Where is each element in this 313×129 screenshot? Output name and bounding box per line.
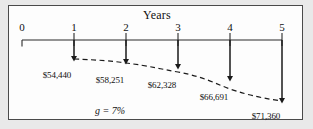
cash-flow-label-year-1: $54,440	[43, 71, 72, 80]
chart-title: Years	[143, 9, 171, 21]
year-label-5: 5	[279, 22, 285, 33]
cash-flow-label-year-3: $62,328	[148, 81, 177, 90]
year-label-2: 2	[123, 22, 129, 33]
growth-rate-annotation: g = 7%	[95, 106, 125, 116]
cash-flow-label-year-2: $58,251	[96, 76, 125, 85]
year-label-3: 3	[175, 22, 181, 33]
cash-flow-label-year-5: $71,360	[252, 112, 281, 121]
cash-flow-timeline-figure: Years 0 1 2 3 4 5 $54,440 $58,251 $62,32…	[0, 0, 313, 129]
year-label-1: 1	[71, 22, 77, 33]
year-label-0: 0	[19, 22, 25, 33]
cash-flow-label-year-4: $66,691	[200, 93, 229, 102]
year-label-4: 4	[227, 22, 233, 33]
